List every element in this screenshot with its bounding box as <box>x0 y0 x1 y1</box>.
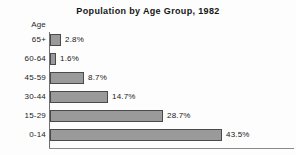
bar-row: 0-14 43.5% <box>0 127 296 146</box>
bar-value-label: 8.7% <box>84 72 107 84</box>
plot-area: 65+ 2.8% 60-64 1.6% 45-59 8.7% 30-44 14.… <box>0 32 296 150</box>
bar-group: 8.7% <box>50 72 107 84</box>
category-label: 60-64 <box>0 54 46 63</box>
x-axis-line <box>49 148 294 149</box>
bar-value-label: 2.8% <box>61 34 84 46</box>
category-label: 15-29 <box>0 111 46 120</box>
bar-value-label: 43.5% <box>222 129 250 141</box>
bar-group: 14.7% <box>50 91 136 103</box>
bar-row: 45-59 8.7% <box>0 70 296 89</box>
category-label: 65+ <box>0 35 46 44</box>
bar-group: 43.5% <box>50 129 250 141</box>
bar-30-44 <box>50 91 108 103</box>
bar-45-59 <box>50 72 84 84</box>
bar-chart: Population by Age Group, 1982 Age 65+ 2.… <box>0 0 296 155</box>
category-label: 0-14 <box>0 130 46 139</box>
y-axis-title: Age <box>0 20 46 29</box>
bar-0-14 <box>50 129 222 141</box>
bar-15-29 <box>50 110 163 122</box>
bar-value-label: 14.7% <box>108 91 136 103</box>
category-label: 30-44 <box>0 92 46 101</box>
category-label: 45-59 <box>0 73 46 82</box>
bar-row: 60-64 1.6% <box>0 51 296 70</box>
bar-value-label: 28.7% <box>163 110 191 122</box>
bar-row: 30-44 14.7% <box>0 89 296 108</box>
bar-group: 28.7% <box>50 110 191 122</box>
bar-group: 2.8% <box>50 34 84 46</box>
bar-group: 1.6% <box>50 53 79 65</box>
bar-value-label: 1.6% <box>56 53 79 65</box>
bar-65-plus <box>50 34 61 46</box>
chart-title: Population by Age Group, 1982 <box>0 6 296 16</box>
bar-row: 65+ 2.8% <box>0 32 296 51</box>
bar-row: 15-29 28.7% <box>0 108 296 127</box>
